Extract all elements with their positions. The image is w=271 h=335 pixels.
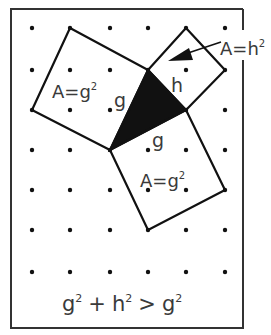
side-label-g-left: g [114, 89, 126, 111]
grid-dot [30, 26, 34, 30]
grid-dot [30, 148, 34, 152]
pythagorean-diagram: A=g2 A=h2 A=g2 g h g g2+h2>g2 [0, 0, 271, 335]
frame-border [11, 9, 243, 328]
grid-dot [223, 108, 227, 112]
grid-dot [146, 270, 150, 274]
grid-dot [146, 148, 150, 152]
grid-dot [30, 228, 34, 232]
area-label-g-lower: A=g2 [140, 170, 185, 191]
grid-dot [108, 26, 112, 30]
grid-dot [68, 68, 72, 72]
grid-dot [30, 270, 34, 274]
grid-dot [223, 148, 227, 152]
grid-dot [68, 270, 72, 274]
grid-dot [68, 108, 72, 112]
grid-dot [68, 188, 72, 192]
inequality-equation: g2+h2>g2 [62, 292, 182, 316]
grid-dot [108, 228, 112, 232]
grid-dot [223, 26, 227, 30]
grid-dot [184, 68, 188, 72]
area-label-h: A=h2 [220, 38, 265, 59]
grid-dot [30, 68, 34, 72]
grid-dot [223, 228, 227, 232]
grid-dot [184, 148, 188, 152]
side-label-h: h [171, 74, 183, 96]
grid-dot [108, 270, 112, 274]
area-label-g-upper: A=g2 [52, 81, 97, 102]
grid-dot [68, 148, 72, 152]
grid-dot [184, 188, 188, 192]
grid-dot [184, 270, 188, 274]
grid-dot [68, 228, 72, 232]
grid-dot [223, 270, 227, 274]
grid-dot [108, 68, 112, 72]
side-label-g-bottom: g [152, 129, 164, 151]
grid-dot [108, 188, 112, 192]
grid-dot [146, 26, 150, 30]
grid-dot [108, 108, 112, 112]
grid-dot [184, 228, 188, 232]
dot-grid [30, 26, 227, 274]
grid-dot [30, 188, 34, 192]
